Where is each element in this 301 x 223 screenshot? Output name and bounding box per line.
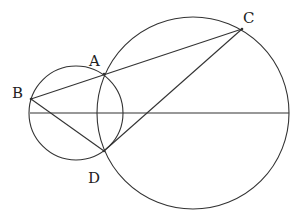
- geometry-diagram: B A C D: [0, 0, 301, 223]
- segment-DC: [104, 29, 242, 151]
- label-C: C: [243, 9, 254, 27]
- point-A: [103, 73, 106, 76]
- segment-BD: [31, 99, 104, 151]
- segment-BC: [31, 29, 242, 99]
- point-B: [30, 98, 33, 101]
- point-D: [103, 150, 106, 153]
- label-D: D: [88, 169, 100, 187]
- point-C: [241, 28, 244, 31]
- label-B: B: [12, 84, 23, 102]
- label-A: A: [88, 52, 100, 70]
